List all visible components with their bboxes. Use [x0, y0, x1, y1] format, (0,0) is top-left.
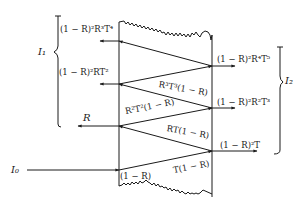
- label-entry-coeff: (1 − R): [120, 172, 151, 181]
- slab-top-edge: [119, 21, 212, 40]
- label-right-output-1: (1 − R)²R⁴T⁵: [217, 55, 270, 64]
- label-left-output-1: (1 − R)²R³T⁴: [60, 25, 113, 34]
- internal-beam-6: [119, 41, 212, 66]
- label-brace-left: I₁: [38, 47, 46, 57]
- label-incident: I₀: [11, 165, 19, 175]
- label-left-output-2: (1 − R)²RT²: [59, 68, 109, 77]
- label-reflected-r: R: [83, 113, 91, 123]
- label-right-output-2: (1 − R)²R²T³: [217, 98, 270, 107]
- label-right-output-3: (1 − R)²T: [220, 141, 260, 150]
- slab-bottom-edge: [119, 180, 212, 194]
- brace-right: [274, 47, 283, 154]
- label-brace-right: I₂: [285, 76, 293, 86]
